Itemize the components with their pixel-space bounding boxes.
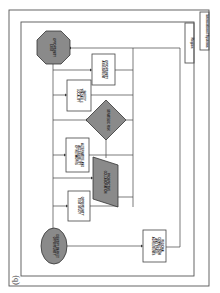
decision-label-1: STRATEGIC RISK: [106, 109, 110, 131]
collaboration-label-2: COLLABORATION: [103, 171, 107, 194]
safety-node: SAFETY TRADABLE LOCALITY: [67, 80, 91, 111]
panel-label: (b): [11, 275, 20, 285]
end-node: OPPORTUNITY EXIST: [37, 31, 70, 64]
safety-label-3: LOCALITY: [76, 89, 80, 102]
regional-node: REGIONAL CONNECTION AND TRADE AGREEMENTS: [143, 230, 166, 262]
test-study-node: OPPORTUNITY TEST STUDY: [68, 191, 90, 221]
alternative-node: ALTERNATIVE AND ACCESSIBILITY OF NETWORK…: [66, 138, 89, 172]
regional-label-4: AGREEMENTS: [151, 237, 155, 256]
end-label-2: EXIST: [49, 44, 53, 52]
assessment-node: OPPORTUNITY ASSESSMENT: [92, 54, 115, 85]
flowchart-diagram: International Systems Region (b) OPPORTU…: [0, 0, 220, 293]
outer-container-label: International Systems: [205, 14, 209, 47]
alternative-label-3: OF NETWORKS: [74, 145, 78, 165]
collaboration-node: PROSPECTIVE COLLABORATION: [93, 157, 118, 207]
decision-node: STRATEGIC RISK: [86, 100, 126, 140]
inner-container-label: Region: [190, 38, 194, 49]
start-label-2: OPPORTUNITY: [52, 237, 56, 256]
diamond-shape: [86, 100, 126, 140]
assessment-label-2: ASSESSMENT: [101, 61, 105, 79]
test-study-label-2: TEST STUDY: [77, 198, 81, 214]
start-node: IDENTIFY MARKET OPPORTUNITY: [41, 228, 67, 264]
